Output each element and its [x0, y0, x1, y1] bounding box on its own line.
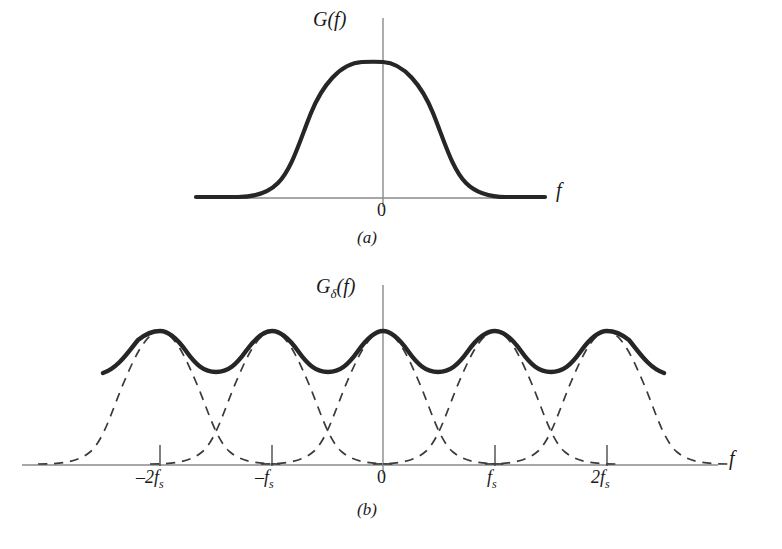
panel-b-y-axis-label: Gδ(f) [316, 275, 355, 302]
panel-a-x-axis-label: f [556, 179, 562, 202]
tick-sub: s [492, 477, 497, 491]
panel-b-tick-label-fs: fs [487, 467, 497, 492]
tick-sub: s [159, 477, 164, 491]
panel-b-tick-label-minus-2fs: –2fs [136, 467, 164, 492]
panel-b [22, 285, 729, 474]
panel-a-y-axis-label: G(f) [313, 8, 346, 31]
tick-text: 2f [591, 467, 605, 487]
panel-b-y-axis-label-main: G [316, 275, 330, 297]
panel-a [196, 18, 545, 207]
panel-b-tick-label-zero: 0 [377, 467, 386, 488]
tick-sub: s [269, 477, 274, 491]
panel-b-caption: (b) [357, 500, 377, 520]
tick-text: 0 [377, 467, 386, 487]
tick-text: –f [255, 467, 269, 487]
panel-a-spectrum-curve [196, 62, 545, 197]
panel-b-y-axis-label-tail: (f) [337, 275, 356, 297]
panel-b-tick-label-minus-fs: –fs [255, 467, 274, 492]
panel-b-x-axis-label: f [729, 447, 735, 470]
panel-a-caption: (a) [357, 228, 377, 248]
panel-a-origin-label: 0 [377, 200, 386, 221]
figure-sampled-spectra [0, 0, 782, 549]
tick-text: –2f [136, 467, 159, 487]
panel-b-tick-label-2fs: 2fs [591, 467, 610, 492]
tick-sub: s [605, 477, 610, 491]
